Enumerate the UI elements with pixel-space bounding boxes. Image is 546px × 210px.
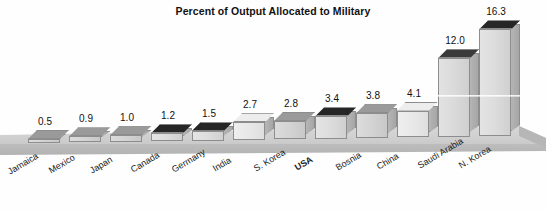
bar-side-face (511, 24, 520, 131)
bar-value-label: 2.8 (268, 98, 314, 109)
bar-china (397, 102, 429, 138)
category-label-bosnia: Bosnia (334, 149, 363, 172)
category-label-s-korea: S. Korea (252, 147, 287, 174)
bar-front-face (356, 113, 388, 138)
bar-s-korea (274, 112, 306, 139)
gridline-upper-soft (432, 96, 546, 97)
bar-japan (110, 126, 142, 142)
bar-mexico (69, 127, 101, 142)
bar-jamaica (28, 130, 60, 143)
bar-india (233, 113, 265, 140)
bar-value-label: 1.5 (186, 108, 232, 119)
bar-usa (315, 107, 347, 138)
bar-canada (151, 124, 183, 141)
bar-front-face (110, 135, 142, 142)
category-label-saudi-arabia: Saudi Arabia (416, 136, 465, 171)
bar-front-face (151, 133, 183, 141)
bar-value-label: 2.7 (227, 99, 273, 110)
category-label-jamaica: Jamaica (6, 151, 40, 177)
bar-value-label: 0.9 (63, 113, 109, 124)
bar-front-face (397, 111, 429, 138)
bar-side-face (429, 106, 438, 133)
bar-front-face (315, 116, 347, 138)
bar-front-face (69, 136, 101, 142)
category-label-n-korea: N. Korea (457, 144, 493, 171)
bar-bosnia (356, 104, 388, 138)
bar-front-face (274, 121, 306, 139)
bar-front-face (28, 139, 60, 143)
chart-root: Percent of Output Allocated to Military … (0, 0, 546, 210)
bar-side-face (470, 53, 479, 132)
bar-n-korea (479, 20, 511, 136)
bar-front-face (233, 122, 265, 140)
bar-value-label: 0.5 (22, 116, 68, 127)
category-label-mexico: Mexico (47, 153, 77, 176)
bar-saudi-arabia (438, 49, 470, 137)
bar-value-label: 16.3 (473, 6, 519, 17)
bar-front-face (192, 131, 224, 141)
bar-value-label: 3.8 (350, 90, 396, 101)
bar-value-label: 1.2 (145, 110, 191, 121)
category-label-usa: USA (293, 154, 314, 172)
category-label-germany: Germany (170, 147, 207, 175)
bar-value-label: 1.0 (104, 112, 150, 123)
bar-top-face (28, 130, 69, 139)
bar-germany (192, 122, 224, 141)
bar-value-label: 3.4 (309, 93, 355, 104)
bar-front-face (438, 58, 470, 137)
category-label-canada: Canada (129, 150, 161, 175)
category-label-japan: Japan (88, 154, 114, 175)
plot-area: 0.5Jamaica0.9Mexico1.0Japan1.2Canada1.5G… (0, 0, 546, 210)
bar-value-label: 4.1 (391, 88, 437, 99)
bar-side-face (388, 108, 397, 133)
bar-front-face (479, 29, 511, 136)
category-label-india: India (211, 155, 233, 174)
bar-value-label: 12.0 (432, 35, 478, 46)
category-label-china: China (375, 151, 400, 172)
